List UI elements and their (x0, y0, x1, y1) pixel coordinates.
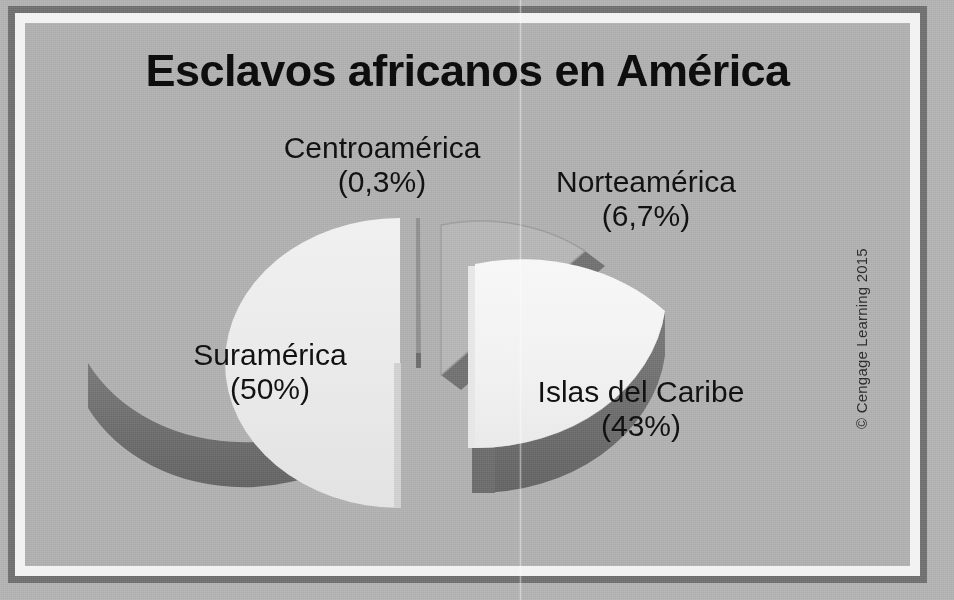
pie-slice-centroamerica-top (416, 218, 421, 363)
pie-label-suramerica: Suramérica (50%) (145, 338, 395, 405)
copyright-credit: © Cengage Learning 2015 (853, 248, 870, 429)
pie-label-norteamerica: Norteamérica (6,7%) (511, 165, 781, 232)
pie-label-centroamerica: Centroamérica (0,3%) (247, 131, 517, 198)
pie-chart-svg (25, 23, 910, 566)
pie-label-islas-del-caribe-percent: (43%) (491, 409, 791, 443)
pie-slice-centroamerica-side (416, 353, 421, 368)
chart-panel: Esclavos africanos en América (25, 23, 910, 566)
pie-slice-centroamerica[interactable] (416, 218, 421, 368)
pie-slice-caribe-cut (468, 266, 475, 448)
pie-label-norteamerica-percent: (6,7%) (511, 199, 781, 233)
pie-label-suramerica-percent: (50%) (145, 372, 395, 406)
pie-chart: Centroamérica (0,3%) Norteamérica (6,7%)… (25, 23, 910, 566)
pie-label-islas-del-caribe: Islas del Caribe (43%) (491, 375, 791, 442)
pie-slice-caribe-base (472, 448, 495, 493)
pie-slice-suramerica-edge (394, 363, 401, 508)
pie-label-islas-del-caribe-name: Islas del Caribe (538, 375, 745, 408)
pie-label-centroamerica-percent: (0,3%) (247, 165, 517, 199)
pie-label-suramerica-name: Suramérica (193, 338, 346, 371)
figure-container: Esclavos africanos en América (0, 0, 954, 600)
pie-label-norteamerica-name: Norteamérica (556, 165, 736, 198)
pie-label-centroamerica-name: Centroamérica (284, 131, 481, 164)
